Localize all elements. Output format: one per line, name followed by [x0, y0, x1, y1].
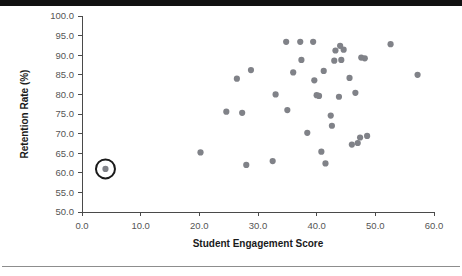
data-point	[304, 130, 310, 136]
x-axis-title: Student Engagement Score	[193, 238, 324, 249]
data-point	[355, 140, 361, 146]
data-point	[283, 39, 289, 45]
data-point-group	[96, 39, 421, 179]
data-point	[321, 68, 327, 74]
data-point	[239, 110, 245, 116]
data-point	[248, 67, 254, 73]
x-tick-label: 20.0	[190, 220, 209, 231]
data-point	[357, 134, 363, 140]
y-tick-label: 95.0	[56, 30, 75, 41]
data-point	[234, 76, 240, 82]
x-tick-label: 30.0	[249, 220, 268, 231]
y-axis: 50.055.060.065.070.075.080.085.090.095.0…	[50, 10, 82, 217]
data-point	[362, 55, 368, 61]
data-point	[297, 39, 303, 45]
y-tick-label: 100.0	[50, 10, 74, 21]
y-tick-label: 65.0	[56, 148, 75, 159]
data-point	[364, 133, 370, 139]
y-tick-label: 55.0	[56, 187, 75, 198]
x-axis: 0.010.020.030.040.050.060.0	[75, 212, 443, 231]
data-point	[316, 93, 322, 99]
data-point	[290, 69, 296, 75]
scatter-plot-figure: 50.055.060.065.070.075.080.085.090.095.0…	[0, 0, 462, 276]
data-point	[346, 75, 352, 81]
data-point	[338, 57, 344, 63]
data-point	[318, 149, 324, 155]
data-point	[311, 77, 317, 83]
y-tick-label: 60.0	[56, 167, 75, 178]
scatter-plot-canvas: 50.055.060.065.070.075.080.085.090.095.0…	[0, 0, 462, 276]
y-tick-label: 85.0	[56, 69, 75, 80]
y-tick-label: 50.0	[56, 206, 75, 217]
bottom-divider-rule	[2, 266, 460, 267]
y-tick-label: 90.0	[56, 50, 75, 61]
data-point	[336, 94, 342, 100]
x-tick-label: 50.0	[366, 220, 385, 231]
y-tick-label: 75.0	[56, 108, 75, 119]
data-point	[349, 141, 355, 147]
x-tick-label: 40.0	[307, 220, 326, 231]
data-point	[332, 47, 338, 53]
highlighted-data-point	[102, 166, 108, 172]
data-point	[284, 107, 290, 113]
y-axis-title: Retention Rate (%)	[19, 70, 30, 159]
data-point	[331, 58, 337, 64]
data-point	[329, 123, 335, 129]
data-point	[273, 91, 279, 97]
data-point	[197, 149, 203, 155]
data-point	[341, 47, 347, 53]
data-point	[352, 90, 358, 96]
data-point	[322, 160, 328, 166]
axis-spines	[82, 16, 434, 212]
x-tick-label: 60.0	[425, 220, 444, 231]
x-tick-label: 0.0	[75, 220, 88, 231]
data-point	[414, 72, 420, 78]
data-point	[298, 57, 304, 63]
data-point	[310, 39, 316, 45]
data-point	[243, 162, 249, 168]
y-tick-label: 70.0	[56, 128, 75, 139]
data-point	[328, 112, 334, 118]
y-tick-label: 80.0	[56, 89, 75, 100]
data-point	[387, 41, 393, 47]
data-point	[223, 109, 229, 115]
data-point	[270, 158, 276, 164]
x-tick-label: 10.0	[131, 220, 150, 231]
